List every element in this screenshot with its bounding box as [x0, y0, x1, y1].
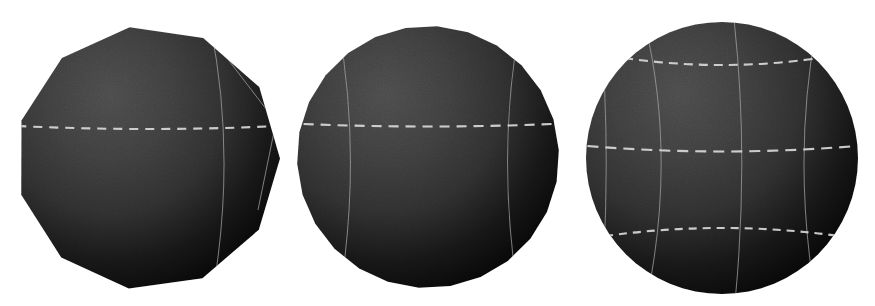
figure-canvas	[0, 0, 875, 306]
fine-tessellation-sphere-body	[586, 22, 858, 294]
sphere-panel-fine	[0, 0, 875, 306]
fine-tessellation-sphere-graphic	[0, 0, 875, 306]
